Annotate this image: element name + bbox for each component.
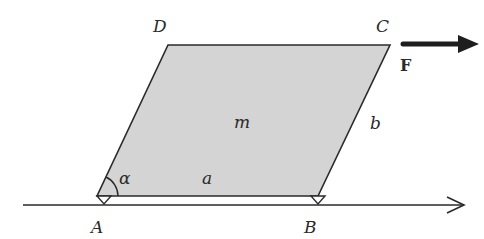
force-arrowhead-icon <box>458 35 479 53</box>
ground-axis <box>23 197 464 213</box>
side-b-label: b <box>370 113 381 133</box>
vertex-label-b: B <box>303 217 317 237</box>
vertex-label-c: C <box>376 16 389 36</box>
support-triangle-b-icon <box>311 196 325 204</box>
force-arrow <box>403 35 479 53</box>
mass-label: m <box>234 112 250 132</box>
vertex-label-a: A <box>89 217 103 237</box>
side-a-label: a <box>202 168 212 188</box>
support-triangle-a-icon <box>97 196 111 204</box>
angle-alpha-label: α <box>119 168 131 188</box>
vertex-label-d: D <box>152 16 167 36</box>
force-label: F <box>400 56 412 75</box>
parallelogram-force-diagram: D C A B m b a α F <box>0 0 484 239</box>
